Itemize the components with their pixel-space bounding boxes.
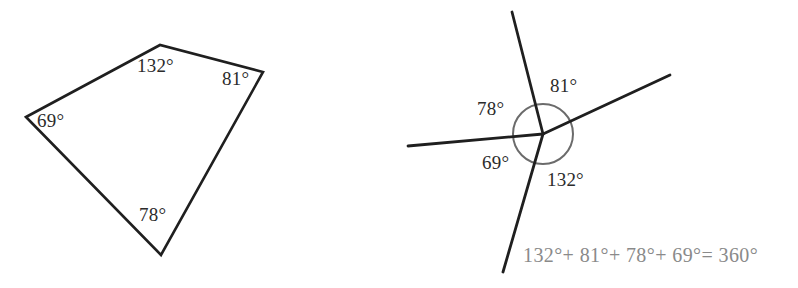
quad-angle-label-left: 69°	[37, 111, 64, 130]
ray-left-line	[408, 134, 543, 146]
quad-angle-label-top: 132°	[137, 56, 174, 75]
ray-angle-label-132: 132°	[547, 170, 584, 189]
ray-angle-label-69: 69°	[482, 153, 509, 172]
quad-angle-label-right: 81°	[222, 69, 249, 88]
rays-diagram	[408, 12, 670, 272]
ray-up-line	[512, 12, 543, 134]
ray-angle-label-78: 78°	[477, 99, 504, 118]
quad-angle-label-bottom: 78°	[139, 205, 166, 224]
geometry-figure: 132° 81° 69° 78° 78° 81° 69° 132° 132°+ …	[0, 0, 798, 288]
ray-angle-label-81: 81°	[550, 76, 577, 95]
angle-sum-equation: 132°+ 81°+ 78°+ 69°= 360°	[523, 245, 758, 265]
